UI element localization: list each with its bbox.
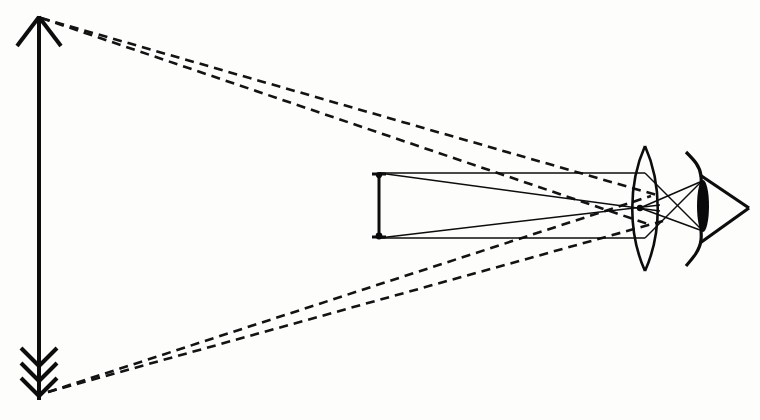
image-arrow-bottom-node bbox=[376, 233, 383, 240]
image-arrow-top-node bbox=[376, 172, 382, 178]
diagram-canvas bbox=[0, 0, 760, 420]
eye-pupil bbox=[697, 180, 709, 232]
optical-ray-diagram: Optical ray diagram: distant object, obj… bbox=[0, 0, 760, 420]
lens-center-node bbox=[637, 205, 643, 211]
